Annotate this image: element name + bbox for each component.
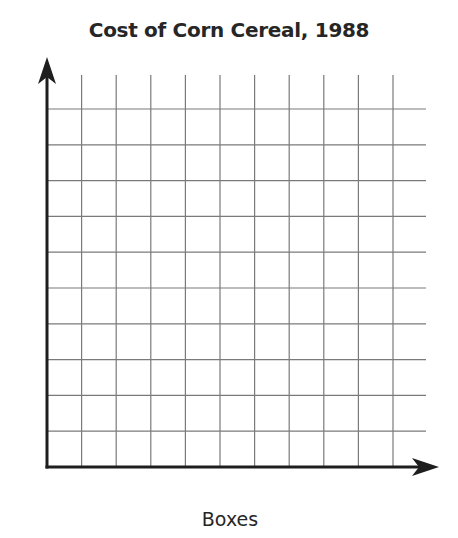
grid-lines: [47, 75, 426, 467]
x-axis-label: Boxes: [0, 508, 458, 530]
axes: [38, 57, 439, 476]
plot-area: [0, 0, 458, 538]
